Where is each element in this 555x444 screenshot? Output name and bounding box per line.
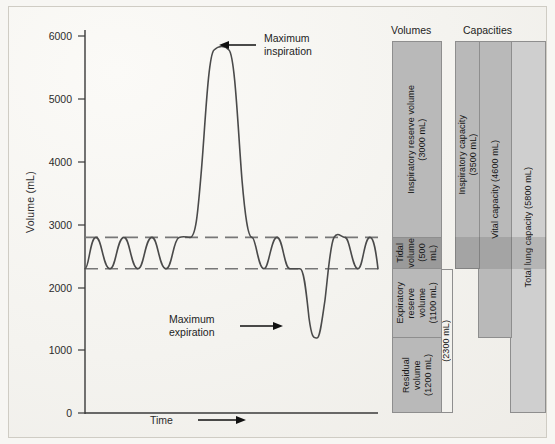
bar-expiratory-reserve-volume[interactable]: Expiratory reserve volume (1100 mL) <box>392 268 442 338</box>
figure-root: Volume (mL) 6000 5000 4000 3000 2000 100… <box>0 0 555 444</box>
time-arrow-icon <box>198 416 246 424</box>
bar-label-total-lung-capacity: Total lung capacity (5800 mL) <box>523 167 534 287</box>
y-tick-6000: 6000 <box>28 30 72 42</box>
bar-label-expiratory-reserve-volume: Expiratory reserve volume (1100 mL) <box>395 282 439 324</box>
maximum-inspiration-arrow <box>219 41 256 49</box>
maximum-inspiration-label: Maximum inspiration <box>264 32 312 57</box>
volumes-column-header: Volumes <box>391 24 431 36</box>
y-axis-ticks <box>78 36 85 413</box>
bar-label-tidal-volume: Tidal volume (500 mL) <box>395 238 439 268</box>
bar-inspiratory-capacity[interactable]: Inspiratory capacity (3500 mL) <box>455 41 480 269</box>
y-tick-2000: 2000 <box>28 282 72 294</box>
x-axis-title: Time <box>150 414 173 426</box>
y-tick-4000: 4000 <box>28 156 72 168</box>
bar-label-vital-capacity: Vital capacity (4600 mL) <box>490 140 501 239</box>
bar-label-inspiratory-reserve-volume: Inspiratory reserve volume (3000 mL) <box>406 85 428 194</box>
y-tick-3000: 3000 <box>28 219 72 231</box>
bar-inspiratory-reserve-volume[interactable]: Inspiratory reserve volume (3000 mL) <box>392 41 442 238</box>
bar-total-lung-capacity[interactable]: Total lung capacity (5800 mL) <box>510 41 546 413</box>
bar-tidal-volume[interactable]: Tidal volume (500 mL) <box>392 237 442 269</box>
capacities-column-header: Capacities <box>463 24 512 36</box>
bar-residual-volume[interactable]: Residual volume (1200 mL) <box>392 337 442 413</box>
y-tick-5000: 5000 <box>28 93 72 105</box>
y-tick-0: 0 <box>28 407 72 419</box>
bar-vital-capacity[interactable]: Vital capacity (4600 mL) <box>478 41 512 338</box>
maximum-expiration-label: Maximum expiration <box>169 313 215 338</box>
bar-label-inspiratory-capacity: Inspiratory capacity (3500 mL) <box>457 115 479 195</box>
maximum-expiration-arrow <box>240 322 283 330</box>
reference-lines <box>85 237 378 268</box>
axis-lines <box>85 30 378 414</box>
bar-label-residual-volume: Residual volume (1200 mL) <box>401 354 434 396</box>
y-tick-1000: 1000 <box>28 344 72 356</box>
spirogram-trace <box>85 46 378 338</box>
